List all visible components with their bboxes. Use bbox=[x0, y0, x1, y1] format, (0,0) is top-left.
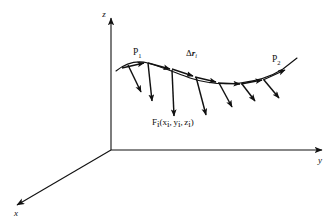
force-arrow-7 bbox=[264, 80, 279, 98]
x-axis-label: x bbox=[13, 208, 18, 218]
delta-r-arrow-7 bbox=[263, 70, 285, 80]
force-arrows bbox=[128, 63, 279, 116]
coordinate-diagram: z y x P1 P2 Δri Fi(xi,yi,zi) bbox=[0, 0, 336, 224]
force-comma-2: , bbox=[180, 117, 182, 127]
point-label-p1: P1 bbox=[133, 47, 142, 59]
delta-r-label: Δri bbox=[186, 48, 197, 59]
force-arrow-2 bbox=[148, 63, 152, 101]
force-arrow-3 bbox=[172, 70, 174, 116]
figure-container: z y x P1 P2 Δri Fi(xi,yi,zi) bbox=[0, 0, 336, 224]
x-axis-line bbox=[17, 150, 111, 205]
force-close-paren: ) bbox=[191, 117, 194, 127]
p2-subscript: 2 bbox=[277, 59, 280, 66]
p1-subscript: 1 bbox=[138, 52, 141, 59]
z-axis-label: z bbox=[101, 9, 106, 19]
force-arrow-6 bbox=[242, 84, 255, 101]
delta-r-subscript: i bbox=[195, 52, 197, 59]
delta-r-arrow-2 bbox=[148, 63, 170, 69]
delta-r-tangent-arrows bbox=[122, 63, 285, 84]
labels-group: P1 P2 Δri Fi(xi,yi,zi) bbox=[133, 47, 281, 129]
y-axis-label: y bbox=[317, 155, 322, 165]
force-arrow-5 bbox=[219, 83, 232, 107]
delta-r-arrow-4 bbox=[195, 77, 216, 82]
force-arrow-4 bbox=[196, 77, 206, 115]
force-arrow-1 bbox=[128, 65, 141, 92]
force-function-label: Fi(xi,yi,zi) bbox=[152, 117, 194, 129]
force-comma-1: , bbox=[170, 117, 172, 127]
point-label-p2: P2 bbox=[272, 54, 281, 66]
axes-group: z y x bbox=[13, 9, 322, 218]
